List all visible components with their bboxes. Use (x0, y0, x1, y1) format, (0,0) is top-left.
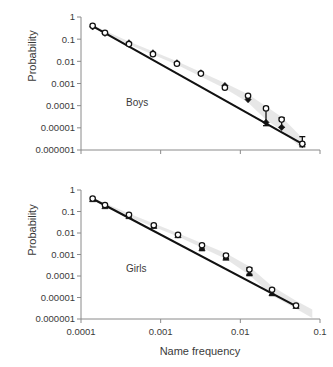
boys-marker-predicted-open-5 (198, 71, 203, 76)
boys-ytick-1: 0.1 (62, 34, 75, 45)
boys-y-axis-title: Probability (26, 0, 38, 116)
girls-fit-path (93, 199, 296, 306)
boys-fit-path (93, 26, 303, 144)
girls-marker-predicted-open-1 (102, 202, 107, 207)
girls-ytick-6: 0.000001 (35, 313, 75, 324)
girls-marker-predicted-open-6 (223, 253, 228, 258)
boys-marker-predicted-open-7 (245, 93, 250, 98)
figure-root: 10.10.010.0010.00010.000010.000001 Boys … (0, 0, 333, 367)
boys-marker-predicted-open-1 (102, 30, 107, 35)
girls-ytick-2: 0.01 (57, 227, 76, 238)
boys-marker-predicted-open-0 (90, 23, 95, 28)
girls-marker-predicted-open-4 (175, 232, 180, 237)
chart-panel-boys: 10.10.010.0010.00010.000010.000001 Boys … (0, 0, 333, 170)
boys-plot-svg: 10.10.010.0010.00010.000010.000001 Boys (0, 0, 333, 170)
chart-panel-girls: 10.10.010.0010.00010.000010.0000010.0001… (0, 172, 333, 367)
girls-fit-line (93, 199, 296, 306)
boys-ytick-0: 1 (70, 11, 75, 22)
boys-ytick-5: 0.00001 (41, 122, 75, 133)
girls-panel-label: Girls (126, 263, 147, 274)
boys-ytick-4: 0.0001 (46, 100, 75, 111)
girls-ytick-5: 0.00001 (41, 292, 75, 303)
girls-marker-predicted-open-8 (269, 287, 274, 292)
girls-y-axis-title: Probability (26, 170, 38, 290)
girls-plot-svg: 10.10.010.0010.00010.000010.0000010.0001… (0, 172, 333, 367)
boys-marker-predicted-open-9 (279, 117, 284, 122)
girls-xtick-1: 0.001 (149, 326, 173, 337)
girls-xtick-2: 0.01 (231, 326, 250, 337)
boys-ytick-3: 0.001 (51, 78, 75, 89)
girls-ytick-4: 0.0001 (46, 270, 75, 281)
girls-marker-predicted-open-0 (90, 196, 95, 201)
girls-xtick-0: 0.0001 (66, 326, 95, 337)
boys-tick-labels: 10.10.010.0010.00010.000010.000001 (35, 11, 75, 155)
boys-ytick-6: 0.000001 (35, 144, 75, 155)
girls-marker-predicted-open-9 (293, 303, 298, 308)
boys-fit-line (93, 26, 303, 144)
girls-marker-predicted-open-5 (199, 243, 204, 248)
girls-marker-predicted-open-3 (151, 223, 156, 228)
girls-ytick-3: 0.001 (51, 249, 75, 260)
boys-panel-label: Boys (126, 97, 148, 108)
boys-marker-predicted-open-8 (263, 106, 268, 111)
girls-x-axis-title: Name frequency (160, 345, 241, 357)
boys-ytick-2: 0.01 (57, 56, 76, 67)
girls-marker-predicted-open-7 (247, 267, 252, 272)
boys-marker-predicted-open-4 (174, 61, 179, 66)
boys-marker-predicted-open-3 (150, 51, 155, 56)
boys-marker-predicted-open-10 (300, 141, 305, 146)
girls-tick-labels: 10.10.010.0010.00010.000010.0000010.0001… (35, 184, 326, 337)
girls-marker-predicted-open-2 (126, 212, 131, 217)
girls-ytick-1: 0.1 (62, 206, 75, 217)
girls-ytick-0: 1 (70, 184, 75, 195)
boys-marker-predicted-open-6 (222, 85, 227, 90)
girls-xtick-3: 0.1 (313, 326, 326, 337)
boys-marker-predicted-open-2 (126, 41, 131, 46)
